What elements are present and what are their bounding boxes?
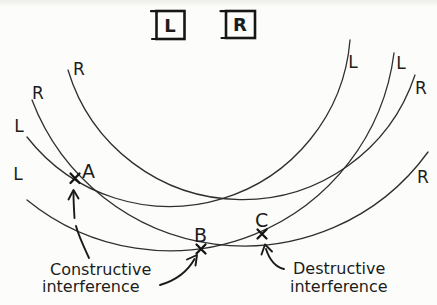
point-label-a: A: [82, 160, 95, 182]
wavefront-arc-left-outer: [27, 53, 394, 251]
constructive-line2: interference: [42, 277, 140, 296]
arc-label-r-inner-left: R: [73, 59, 85, 79]
wavefront-arc-right-inner: [68, 70, 415, 200]
destructive-line2: interference: [290, 277, 388, 296]
arrow-to-point-a-icon: [69, 190, 90, 258]
arc-label-l-outer-left: L: [13, 164, 23, 184]
point-label-c: C: [255, 209, 268, 231]
arc-label-r-outer-right: R: [417, 167, 429, 187]
diagram-canvas: L R R R L L L L R R A B C: [0, 0, 437, 305]
arc-label-l-inner-left: L: [14, 116, 24, 136]
arc-label-l-inner-right: L: [348, 52, 358, 72]
arc-label-r-inner-right: R: [415, 78, 427, 98]
arc-label-r-outer-left: R: [32, 83, 44, 103]
interference-diagram: L R R R L L L L R R A B C: [0, 0, 437, 305]
speaker-label-right: R: [233, 14, 247, 35]
destructive-line1: Destructive: [293, 259, 385, 278]
speaker-label-left: L: [164, 15, 175, 36]
destructive-interference-label: Destructive interference: [290, 259, 388, 296]
speaker-left: L: [151, 11, 185, 39]
arc-label-l-outer-right: L: [396, 53, 406, 73]
arrow-to-point-b-icon: [160, 255, 197, 285]
arrow-to-point-c-icon: [262, 245, 285, 270]
constructive-interference-label: Constructive interference: [42, 260, 151, 296]
point-label-b: B: [194, 224, 207, 246]
speaker-right: R: [221, 11, 256, 38]
